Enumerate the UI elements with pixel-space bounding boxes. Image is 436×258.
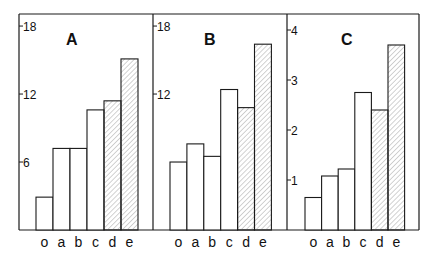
x-tick-label: b [75, 234, 83, 250]
x-tick-label: d [109, 234, 117, 250]
three-panel-bar-chart: 61218Aoabcde1218Boabcde1234Coabcde [0, 0, 436, 258]
x-tick-label: b [208, 234, 216, 250]
y-tick-label: 2 [291, 124, 298, 138]
panel-title: C [341, 31, 353, 48]
y-tick-label: 18 [157, 20, 171, 34]
x-tick-label: a [58, 234, 66, 250]
bar-o [170, 162, 187, 230]
x-tick-label: c [226, 234, 233, 250]
bar-a [53, 148, 70, 230]
bar-o [36, 197, 53, 230]
y-tick-label: 18 [23, 20, 37, 34]
chart-canvas: 61218Aoabcde1218Boabcde1234Coabcde [0, 0, 436, 258]
panel-title: B [204, 31, 216, 48]
x-tick-label: d [242, 234, 250, 250]
bar-hatched-d [238, 108, 255, 230]
bar-hatched-e [388, 45, 405, 230]
panel-c: 1234Coabcde [287, 14, 405, 250]
x-tick-label: b [343, 234, 351, 250]
x-tick-label: o [309, 234, 317, 250]
bar-o [305, 198, 322, 231]
y-tick-label: 1 [291, 174, 298, 188]
bar-hatched-e [255, 44, 272, 230]
y-tick-label: 12 [23, 88, 37, 102]
y-tick-label: 3 [291, 74, 298, 88]
x-tick-label: a [191, 234, 199, 250]
bar-c [87, 110, 104, 230]
bar-hatched-e [121, 59, 138, 230]
bar-hatched-d [371, 110, 388, 230]
x-tick-label: c [92, 234, 99, 250]
bar-a [322, 176, 339, 230]
x-tick-label: o [41, 234, 49, 250]
x-tick-label: d [376, 234, 384, 250]
y-tick-label: 6 [23, 156, 30, 170]
bar-c [355, 93, 372, 231]
bar-c [221, 90, 238, 230]
bar-b [204, 156, 221, 230]
x-tick-label: e [259, 234, 267, 250]
panel-a: 61218Aoabcde [19, 14, 138, 250]
panel-title: A [66, 31, 78, 48]
bar-a [187, 144, 204, 230]
x-tick-label: o [175, 234, 183, 250]
bar-hatched-d [104, 101, 121, 230]
x-tick-label: c [360, 234, 367, 250]
bar-b [70, 148, 87, 230]
y-tick-label: 12 [157, 88, 171, 102]
x-tick-label: e [392, 234, 400, 250]
y-tick-label: 4 [291, 24, 298, 38]
bar-b [338, 169, 355, 230]
x-tick-label: a [326, 234, 334, 250]
x-tick-label: e [126, 234, 134, 250]
panel-b: 1218Boabcde [153, 14, 271, 250]
